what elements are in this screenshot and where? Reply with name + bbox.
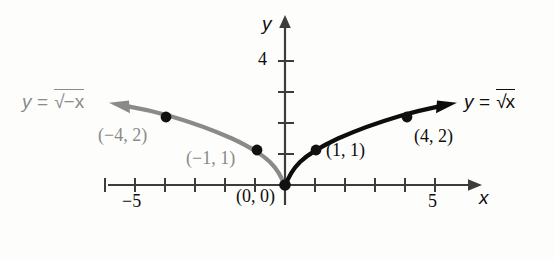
left-curve-radical-group: √−x [54, 89, 84, 112]
curve-sqrt-neg-x [128, 106, 285, 185]
point-marker-neg1-1 [252, 145, 263, 156]
left-curve-equation-label: y = √−x [22, 92, 84, 111]
plot-canvas [0, 0, 555, 261]
right-curve-equation-label: y = √x [464, 92, 515, 111]
point-marker-4-2 [402, 112, 413, 123]
x-tick-label-5: 5 [428, 192, 437, 210]
point-label-neg1-1: (−1, 1) [186, 149, 235, 167]
point-label-4-2: (4, 2) [414, 127, 453, 145]
left-curve-arrowhead [109, 100, 130, 113]
point-label-origin: (0, 0) [236, 187, 275, 205]
x-axis-label: x [479, 188, 489, 207]
left-curve-equation-prefix: y = [22, 91, 53, 112]
square-root-graph-figure: y = √−x y = √x (−4, 2) (−1, 1) (0, 0) (1… [0, 0, 555, 261]
right-curve-radical-group: √x [496, 89, 515, 112]
point-marker-neg4-2 [161, 112, 172, 123]
right-curve-equation-prefix: y = [464, 91, 495, 112]
left-curve-radicand: −x [64, 91, 85, 112]
y-axis-arrowhead [279, 15, 291, 28]
point-marker-origin [279, 179, 291, 191]
point-label-1-1: (1, 1) [326, 141, 365, 159]
point-label-neg4-2: (−4, 2) [98, 126, 147, 144]
y-axis-label: y [262, 14, 272, 33]
y-tick-label-4: 4 [258, 50, 267, 68]
x-tick-label-neg5: −5 [122, 192, 141, 210]
right-curve-radicand: x [506, 91, 516, 112]
right-curve-arrowhead [436, 100, 457, 113]
point-marker-1-1 [311, 145, 322, 156]
